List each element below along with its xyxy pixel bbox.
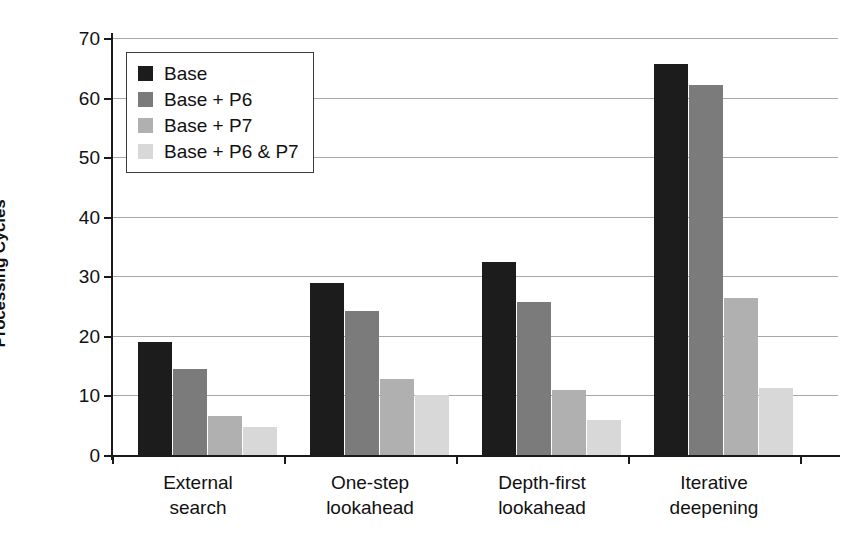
legend-item: Base + P6 & P7 — [138, 138, 299, 164]
x-axis-tick — [628, 455, 630, 464]
x-axis-line — [104, 455, 840, 457]
category-label-line: Depth-first — [456, 470, 628, 495]
y-axis-tick-labels: 010203040506070 — [50, 0, 100, 547]
y-axis-title: Processing Cycles — [0, 0, 54, 547]
category-label-line: deepening — [628, 495, 800, 520]
bar — [552, 390, 586, 455]
legend-swatch-icon — [138, 66, 153, 81]
category-label-line: lookahead — [284, 495, 456, 520]
legend-swatch-icon — [138, 92, 153, 107]
legend: BaseBase + P6Base + P7Base + P6 & P7 — [126, 52, 314, 173]
x-axis-category-label: One-steplookahead — [284, 470, 456, 520]
y-axis-tick-label: 40 — [58, 208, 100, 227]
legend-item: Base + P7 — [138, 112, 299, 138]
y-axis-tick-label: 10 — [58, 386, 100, 405]
bar — [689, 85, 723, 455]
bar — [173, 369, 207, 455]
x-axis-tick — [284, 455, 286, 464]
bar — [345, 311, 379, 455]
bar — [243, 427, 277, 455]
y-axis-tick — [104, 395, 113, 397]
y-axis-tick-label: 70 — [58, 29, 100, 48]
y-axis-tick — [104, 98, 113, 100]
legend-item: Base — [138, 60, 299, 86]
y-axis-tick-label: 60 — [58, 89, 100, 108]
y-axis-tick — [104, 38, 113, 40]
y-axis-tick-label: 30 — [58, 267, 100, 286]
bar — [415, 395, 449, 455]
bar — [724, 298, 758, 455]
x-axis-tick — [456, 455, 458, 464]
bar-group — [482, 38, 634, 455]
x-axis-category-label: Externalsearch — [112, 470, 284, 520]
bar-group — [310, 38, 462, 455]
y-axis-tick-label: 50 — [58, 148, 100, 167]
y-axis-tick — [104, 336, 113, 338]
category-label-line: External — [112, 470, 284, 495]
x-axis-tick — [112, 455, 114, 464]
x-axis-category-label: Depth-firstlookahead — [456, 470, 628, 520]
category-label-line: search — [112, 495, 284, 520]
y-axis-tick-label: 0 — [58, 446, 100, 465]
bar — [310, 283, 344, 455]
legend-label: Base + P6 & P7 — [164, 142, 299, 161]
legend-item: Base + P6 — [138, 86, 299, 112]
bar — [517, 302, 551, 455]
category-label-line: Iterative — [628, 470, 800, 495]
legend-swatch-icon — [138, 118, 153, 133]
y-axis-tick-label: 20 — [58, 327, 100, 346]
legend-label: Base + P7 — [164, 116, 252, 135]
x-axis-category-label: Iterativedeepening — [628, 470, 800, 520]
bar — [759, 388, 793, 455]
bar — [482, 262, 516, 455]
bar — [208, 416, 242, 455]
legend-label: Base — [164, 64, 207, 83]
bar — [138, 342, 172, 455]
bar — [587, 420, 621, 455]
category-label-line: lookahead — [456, 495, 628, 520]
bar — [654, 64, 688, 455]
y-axis-tick — [104, 276, 113, 278]
legend-swatch-icon — [138, 144, 153, 159]
bar-group — [654, 38, 806, 455]
y-axis-tick — [104, 157, 113, 159]
legend-label: Base + P6 — [164, 90, 252, 109]
x-axis-tick — [800, 455, 802, 464]
bar — [380, 379, 414, 455]
category-label-line: One-step — [284, 470, 456, 495]
bar-chart-figure: Processing Cycles 010203040506070 BaseBa… — [0, 0, 852, 547]
y-axis-tick — [104, 217, 113, 219]
